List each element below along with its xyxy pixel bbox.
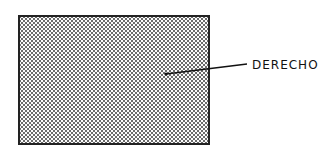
region-label: DERECHO — [252, 58, 319, 72]
leader-line — [0, 0, 327, 147]
